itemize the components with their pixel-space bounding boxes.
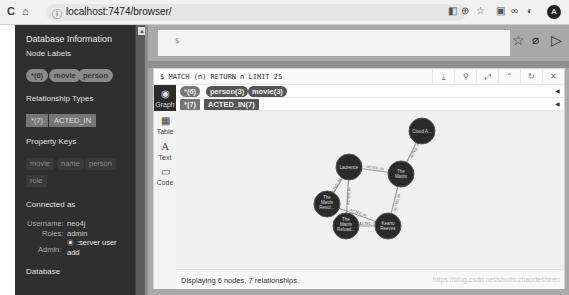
url-text[interactable]: localhost:7474/browser/ <box>66 6 172 17</box>
tab-table[interactable]: ▦ Table <box>154 112 176 138</box>
profile-avatar[interactable]: A <box>547 5 561 19</box>
tab-label: Text <box>154 153 176 162</box>
zoom-icon[interactable]: ⊕ <box>461 5 469 16</box>
infinity-extension-icon[interactable]: ∞ <box>511 5 518 16</box>
node-pill-movie[interactable]: movie(3) <box>248 86 287 97</box>
browser-chrome: C ⌂ ⓘ localhost:7474/browser/ ◧ ⊕ ☆ ▣ ∞ … <box>0 0 569 25</box>
svg-text:Reload...: Reload... <box>337 227 355 232</box>
rel-pill-all[interactable]: *(7) <box>180 99 200 110</box>
graph-visualization[interactable]: ACTED_IN ACTED_IN ACTED_IN ACTED_IN ACTE… <box>176 111 564 269</box>
property-key-person[interactable]: person <box>85 158 116 170</box>
svg-text:Matrix: Matrix <box>395 174 408 179</box>
node-the-matrix-revolutions[interactable]: The Matrix Revol... <box>314 191 340 217</box>
tab-label: Code <box>154 178 176 187</box>
node-keanu-reeves[interactable]: Keanu Reeves <box>375 213 401 239</box>
node-label-all[interactable]: *(6) <box>26 69 48 82</box>
expand-caret-icon[interactable]: ◀ <box>555 87 560 94</box>
expand-caret-icon[interactable]: ◀ <box>555 100 560 107</box>
code-icon: ▭ <box>154 166 176 178</box>
property-key-name[interactable]: name <box>57 158 84 170</box>
svg-text:ACTED_IN: ACTED_IN <box>347 187 352 205</box>
node-labels-heading: Node Labels <box>26 49 71 58</box>
download-icon[interactable]: ⤓ <box>432 69 454 85</box>
svg-text:ACTED_IN: ACTED_IN <box>393 193 401 211</box>
watermark-text: https://blog.csdn.net/shuibuzhaodeshiren <box>433 276 560 283</box>
admin-command-line2[interactable]: add <box>67 248 80 257</box>
cypher-editor[interactable]: $ <box>158 30 510 56</box>
database-heading: Database <box>26 267 60 276</box>
svg-text:Reeves: Reeves <box>380 226 396 231</box>
fullscreen-icon[interactable]: ⤢ <box>476 69 498 85</box>
tab-text[interactable]: A Text <box>154 138 176 164</box>
graph-canvas[interactable]: ACTED_IN ACTED_IN ACTED_IN ACTED_IN ACTE… <box>176 111 564 269</box>
node-pill-all[interactable]: *(6) <box>180 86 200 97</box>
tab-label: Table <box>154 127 176 136</box>
result-footer: Displaying 6 nodes, 7 relationships. htt… <box>176 269 564 289</box>
property-keys-heading: Property Keys <box>26 137 76 146</box>
username-label: Username: <box>27 219 64 228</box>
sidebar-title: Database Information <box>26 34 112 44</box>
rel-type-acted-in[interactable]: ACTED_IN <box>49 114 96 127</box>
reload-icon[interactable]: C <box>7 5 15 17</box>
bookmark-star-icon[interactable]: ☆ <box>476 5 485 16</box>
tab-label: Graph <box>154 100 176 109</box>
admin-command-line1: :server user <box>77 238 117 247</box>
username-value: neo4j <box>67 219 85 228</box>
database-info-sidebar: Database Information Node Labels *(6) mo… <box>15 25 135 295</box>
node-label-person[interactable]: person <box>78 69 113 82</box>
close-icon[interactable]: ✕ <box>542 69 564 85</box>
svg-text:Revol...: Revol... <box>319 205 334 210</box>
node-the-matrix[interactable]: The Matrix <box>388 161 414 187</box>
site-info-icon[interactable]: ⓘ <box>52 6 62 21</box>
admin-label: Admin: <box>38 245 61 254</box>
translate-icon[interactable]: ◧ <box>448 5 457 16</box>
graph-icon: ◉ <box>154 88 176 100</box>
sidebar-scrollbar[interactable]: ▲ <box>135 25 148 295</box>
main-area: $ ☆ ⌀ ▷ $ MATCH (n) RETURN n LIMIT 25 ⤓ … <box>148 25 569 295</box>
extension-icon[interactable]: ▣ <box>496 5 505 16</box>
svg-text:ACTED_IN: ACTED_IN <box>359 222 377 226</box>
collapse-icon[interactable]: ⌃ <box>498 69 520 85</box>
clear-editor-icon[interactable]: ⌀ <box>532 33 539 47</box>
admin-command[interactable]: :server user <box>67 238 117 247</box>
node-laurence[interactable]: Laurence <box>336 154 362 180</box>
editor-separator <box>148 61 569 68</box>
node-labels-row: *(6) person(3) movie(3) ◀ <box>176 85 564 98</box>
query-text[interactable]: $ MATCH (n) RETURN n LIMIT 25 <box>160 73 282 81</box>
text-icon: A <box>154 141 176 153</box>
rel-type-all[interactable]: *(7) <box>26 114 48 127</box>
result-frame-header: $ MATCH (n) RETURN n LIMIT 25 ⤓ ⚲ ⤢ ⌃ ↻ … <box>154 69 564 85</box>
table-icon: ▦ <box>154 115 176 127</box>
svg-text:Cloud A...: Cloud A... <box>412 129 432 134</box>
rel-types-row: *(7) ACTED_IN(7) ◀ <box>176 98 564 111</box>
rerun-icon[interactable]: ↻ <box>520 69 542 85</box>
roles-value: admin <box>67 229 87 238</box>
connected-as-heading: Connected as <box>26 200 75 209</box>
property-key-movie[interactable]: movie <box>26 158 54 170</box>
shield-extension-icon[interactable]: ◐ <box>527 5 533 16</box>
home-icon[interactable]: ⌂ <box>22 5 29 17</box>
editor-prompt: $ <box>175 37 179 45</box>
roles-label: Roles: <box>42 229 63 238</box>
rel-pill-acted-in[interactable]: ACTED_IN(7) <box>204 99 259 110</box>
favorite-star-icon[interactable]: ☆ <box>512 32 525 48</box>
svg-text:Laurence: Laurence <box>340 165 359 170</box>
node-pill-person[interactable]: person(3) <box>206 86 248 97</box>
node-cloud-atlas[interactable]: Cloud A... <box>409 118 435 144</box>
node-the-matrix-reloaded[interactable]: The Matrix Reload... <box>333 213 359 239</box>
tab-code[interactable]: ▭ Code <box>154 163 176 189</box>
node-label-movie[interactable]: movie <box>49 69 81 82</box>
status-text: Displaying 6 nodes, 7 relationships. <box>181 276 299 285</box>
property-key-role[interactable]: role <box>26 175 47 187</box>
tab-graph[interactable]: ◉ Graph <box>154 85 176 111</box>
result-view-tabs: ◉ Graph ▦ Table A Text ▭ Code <box>154 85 176 289</box>
pin-icon[interactable]: ⚲ <box>454 69 476 85</box>
play-icon <box>67 239 74 246</box>
result-frame: $ MATCH (n) RETURN n LIMIT 25 ⤓ ⚲ ⤢ ⌃ ↻ … <box>153 68 565 289</box>
relationship-types-heading: Relationship Types <box>26 94 93 103</box>
run-query-icon[interactable]: ▷ <box>551 32 562 48</box>
address-bar[interactable]: ⓘ localhost:7474/browser/ <box>46 4 466 21</box>
